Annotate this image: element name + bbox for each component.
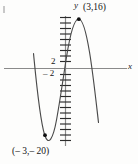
- local-max-marker: [77, 17, 81, 21]
- plot-canvas: [0, 0, 138, 164]
- local-min-marker: [43, 133, 47, 137]
- cubic-graph-figure: y x 2 – 2 (3,16) (– 3,– 20): [0, 0, 138, 164]
- y-tick-label-2: 2: [51, 57, 56, 66]
- y-axis-label: y: [74, 1, 78, 10]
- y-tick-label-negative-2: – 2: [43, 69, 54, 78]
- x-axis-label: x: [128, 62, 132, 71]
- local-min-point-label: (– 3,– 20): [12, 147, 49, 157]
- local-max-point-label: (3,16): [83, 3, 106, 13]
